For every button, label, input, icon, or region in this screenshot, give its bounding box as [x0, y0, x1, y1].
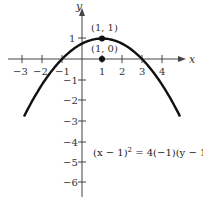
y-tick-label: 1	[69, 33, 75, 44]
x-tick-label: 4	[159, 66, 165, 77]
y-tick-label: −5	[63, 157, 78, 168]
focus-point	[99, 56, 105, 62]
y-tick-label: −1	[63, 75, 78, 86]
x-axis-label: x	[189, 53, 196, 66]
y-axis-label: y	[75, 0, 83, 13]
y-tick-label: −4	[63, 137, 78, 148]
y-tick-label: −3	[63, 116, 78, 127]
x-tick-label: −2	[33, 66, 48, 77]
x-tick-label: −3	[13, 66, 28, 77]
x-axis-arrow-icon	[178, 56, 186, 62]
y-tick-label: −2	[63, 95, 78, 106]
x-tick-label: 1	[99, 66, 105, 77]
equation-label: (x − 1)2 = 4(−1)(y − 1)	[93, 146, 203, 158]
vertex-label: (1, 1)	[91, 22, 118, 33]
x-tick-label: 2	[119, 66, 125, 77]
y-tick-label: −6	[63, 177, 78, 188]
parabola-chart: x −3 −2 −1 1 2 3 4 y 1	[0, 0, 203, 208]
x-tick-label: 3	[139, 66, 145, 77]
y-axis: y 1 −1 −2 −3 −4 −5 −6	[63, 0, 86, 197]
focus-label: (1, 0)	[91, 43, 118, 54]
vertex-point	[99, 36, 105, 42]
